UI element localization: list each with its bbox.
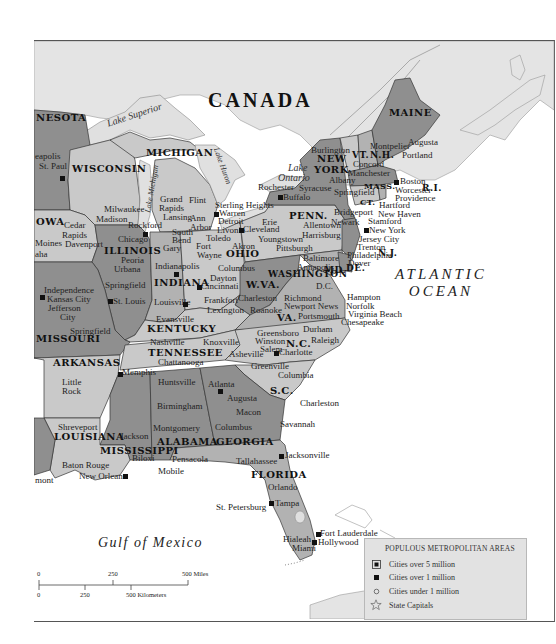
ocean-label-line2: OCEAN <box>395 284 487 299</box>
state-label-wisconsin: WISCONSIN <box>72 164 146 174</box>
state-label-west-virginia: W.VA. <box>246 280 280 290</box>
city-marker <box>239 228 244 233</box>
city-springfield-mo: Springfield <box>70 327 111 336</box>
city-knoxville: Knoxville <box>203 338 239 347</box>
state-label-alabama: ALABAMA <box>157 437 218 447</box>
city-new-orleans: New Orleans <box>79 472 126 481</box>
city-shreveport: Shreveport <box>58 423 98 432</box>
city-toledo: Toledo <box>206 234 231 243</box>
city-fort-wayne-2: Wayne <box>197 251 222 260</box>
city-marker <box>364 228 369 233</box>
gulf-label: Gulf of Mexico <box>98 536 203 550</box>
city-pensacola: Pensacola <box>172 455 208 464</box>
city-jacksonville: Jacksonville <box>285 451 330 460</box>
city-marker <box>218 389 223 394</box>
city-south-bend-2: Bend <box>172 236 191 245</box>
city-marker <box>60 176 65 181</box>
city-tallahassee: Tallahassee <box>236 457 277 466</box>
city-marker <box>40 295 45 300</box>
city-charleston-sc: Charleston <box>300 399 339 408</box>
city-rochester: Rochester <box>258 183 294 192</box>
state-label-new-york-2: YORK <box>314 165 349 175</box>
state-label-arkansas: ARKANSAS <box>53 358 120 368</box>
city-rockford: Rockford <box>128 221 162 230</box>
city-buffalo: Buffalo <box>283 193 310 202</box>
state-label-connecticut: CT. <box>360 198 376 206</box>
city-augusta-me: Augusta <box>408 138 438 147</box>
legend-item-under-1-million: Cities under 1 million <box>369 585 459 597</box>
city-columbus-ga: Columbus <box>215 423 252 432</box>
bahamas <box>335 505 372 528</box>
state-label-new-york-1: NEW <box>317 154 347 164</box>
city-springfield-il: Springfield <box>105 281 146 290</box>
state-label-iowa: OWA <box>36 217 65 227</box>
city-marker <box>123 474 128 479</box>
city-des-moines: Moines <box>35 239 62 248</box>
city-pittsburgh: Pittsburgh <box>276 244 313 253</box>
city-macon: Macon <box>236 408 261 417</box>
city-urbana: Urbana <box>114 265 141 274</box>
city-st-petersburg: St. Petersburg <box>216 503 266 512</box>
city-savannah: Savannah <box>280 420 315 429</box>
scale-miles-0: 0 <box>37 571 40 578</box>
scale-km-500: 500 Kilometers <box>126 592 166 599</box>
city-burlington: Burlington <box>311 146 350 155</box>
city-marker <box>278 195 283 200</box>
legend: POPULOUS METROPOLITAN AREAS Cities over … <box>364 538 527 620</box>
city-st-paul: St. Paul <box>39 162 67 171</box>
filled-square-icon <box>369 573 383 582</box>
city-annapolis: Annapolis <box>297 263 334 272</box>
city-frankfort: Frankfort <box>204 296 238 305</box>
city-charlotte: Charlotte <box>279 348 313 357</box>
city-jackson: Jackson <box>120 432 149 441</box>
city-marker <box>174 272 179 277</box>
legend-title: POPULOUS METROPOLITAN AREAS <box>385 544 515 553</box>
state-label-minnesota: NESOTA <box>36 113 86 123</box>
city-raleigh: Raleigh <box>311 336 339 345</box>
city-marker <box>108 299 113 304</box>
city-marker <box>279 454 284 459</box>
city-cincinnati: Cincinnati <box>201 282 239 291</box>
city-gary: Gary <box>163 244 181 253</box>
city-charleston-wv: Charleston <box>238 294 277 303</box>
city-davenport: Davenport <box>65 240 103 249</box>
city-marker <box>143 232 148 237</box>
state-label-georgia: GEORGIA <box>216 437 274 447</box>
city-orlando: Orlando <box>268 483 298 492</box>
city-harrisburg: Harrisburg <box>302 231 341 240</box>
city-dover: Dover <box>348 259 371 268</box>
city-erie: Erie <box>262 218 277 227</box>
state-label-florida: FLORIDA <box>251 470 307 480</box>
legend-item-over-5-million: Cities over 5 million <box>369 558 455 570</box>
star-icon <box>369 599 383 611</box>
city-marker <box>312 540 317 545</box>
city-birmingham: Birmingham <box>157 402 203 411</box>
boxed-square-icon <box>369 560 383 569</box>
legend-label: Cities over 1 million <box>389 573 455 582</box>
legend-label: Cities under 1 million <box>389 587 459 596</box>
city-omaha: aha <box>35 250 48 259</box>
city-milwaukee: Milwaukee <box>104 205 145 214</box>
city-flint: Flint <box>189 196 206 205</box>
city-marker <box>214 212 219 217</box>
city-baton-rouge: Baton Rouge <box>62 461 109 470</box>
city-lansing: Lansing <box>163 213 192 222</box>
city-indianapolis: Indianapolis <box>155 262 200 271</box>
city-beaumont: mont <box>35 476 54 485</box>
city-tampa: Tampa <box>275 499 299 508</box>
city-nashville: Nashville <box>150 338 185 347</box>
city-mobile: Mobile <box>158 467 184 476</box>
city-memphis: Memphis <box>122 368 156 377</box>
legend-label: State Capitals <box>389 601 433 610</box>
city-montgomery: Montgomery <box>153 424 200 433</box>
state-label-kentucky: KENTUCKY <box>147 324 216 334</box>
city-st-louis: St. Louis <box>113 297 146 306</box>
legend-item-over-1-million: Cities over 1 million <box>369 571 455 583</box>
dc-abbrev-label: D.C. <box>316 282 333 291</box>
ocean-label-line1: ATLANTIC <box>395 267 487 282</box>
city-marker <box>274 351 279 356</box>
city-portsmouth: Portsmouth <box>298 312 340 321</box>
city-roanoke: Roanoke <box>250 306 282 315</box>
city-chattanooga: Chattanooga <box>158 358 204 367</box>
city-little-rock-2: Rock <box>62 387 81 396</box>
